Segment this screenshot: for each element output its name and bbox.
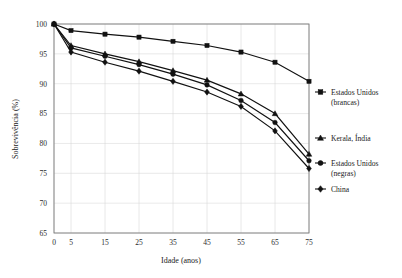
chart-legend: Estados Unidos(brancas)Kerala, ÍndiaEsta… <box>315 88 379 194</box>
x-tick-label: 15 <box>101 238 109 247</box>
x-tick-label: 65 <box>271 238 279 247</box>
x-tick-label: 45 <box>203 238 211 247</box>
legend-label-second-line: (negras) <box>331 169 356 178</box>
legend-marker-circle <box>318 161 323 166</box>
series-line <box>54 24 309 154</box>
data-point-marker <box>103 32 107 36</box>
x-tick-label: 25 <box>135 238 143 247</box>
data-point-marker <box>103 59 108 65</box>
data-point-marker <box>239 103 244 109</box>
x-tick-label: 55 <box>237 238 245 247</box>
data-point-marker <box>273 120 278 125</box>
chart-figure: 65707580859095100 0515253545556575 Idade… <box>0 0 402 278</box>
data-point-marker <box>205 43 209 47</box>
data-point-marker <box>205 89 210 95</box>
data-point-marker <box>137 62 142 67</box>
data-point-marker <box>137 35 141 39</box>
data-point-marker <box>103 54 108 59</box>
legend-label: Estados Unidos <box>331 88 379 97</box>
x-tick-label: 5 <box>69 238 73 247</box>
y-tick-label: 90 <box>40 80 48 89</box>
y-tick-label: 95 <box>40 50 48 59</box>
legend-label-second-line: (brancas) <box>331 98 360 107</box>
legend-marker-square <box>318 90 323 95</box>
x-axis-title: Idade (anos) <box>161 256 201 265</box>
y-tick-label: 75 <box>40 169 48 178</box>
data-point-marker <box>69 28 73 32</box>
survival-curve-chart: 65707580859095100 0515253545556575 Idade… <box>0 0 402 278</box>
data-point-marker <box>239 50 243 54</box>
legend-label: Estados Unidos <box>331 159 379 168</box>
y-tick-label: 100 <box>36 20 48 29</box>
data-point-marker <box>307 158 312 163</box>
series-line <box>54 24 309 161</box>
series-line <box>54 24 309 169</box>
legend-marker-diamond <box>318 186 323 193</box>
y-tick-label: 80 <box>40 139 48 148</box>
x-tick-label: 0 <box>52 238 56 247</box>
x-axis-tick-labels: 0515253545556575 <box>52 238 313 247</box>
y-tick-label: 85 <box>40 109 48 118</box>
data-point-marker <box>171 39 175 43</box>
legend-entry: Kerala, Índia <box>315 133 371 143</box>
x-tick-label: 35 <box>169 238 177 247</box>
legend-label: China <box>331 185 350 194</box>
y-axis-title: Sobrevivência (%) <box>11 99 20 159</box>
legend-label: Kerala, Índia <box>331 133 371 143</box>
legend-entry: Estados Unidos(brancas) <box>315 88 379 107</box>
data-point-marker <box>171 72 176 77</box>
data-point-marker <box>137 68 142 74</box>
data-point-marker <box>205 83 210 88</box>
data-series <box>51 21 312 156</box>
y-axis-tick-labels: 65707580859095100 <box>36 20 48 238</box>
x-tick-label: 75 <box>305 238 313 247</box>
legend-entry: China <box>315 185 350 194</box>
legend-entry: Estados Unidos(negras) <box>315 159 379 178</box>
data-point-marker <box>273 60 277 64</box>
y-tick-label: 70 <box>40 199 48 208</box>
data-point-marker <box>239 98 244 103</box>
data-point-marker <box>307 79 311 83</box>
y-tick-label: 65 <box>40 229 48 238</box>
data-series-layer <box>51 21 312 172</box>
data-point-marker <box>272 111 278 116</box>
data-series <box>52 21 312 172</box>
